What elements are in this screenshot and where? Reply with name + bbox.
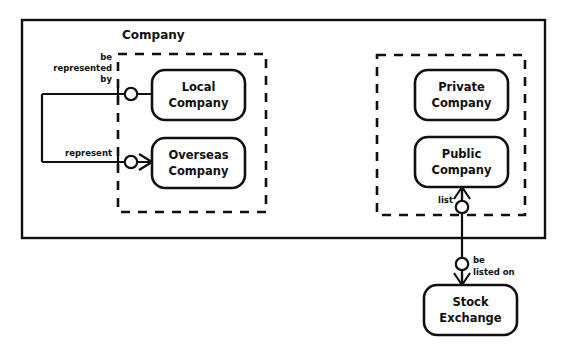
svg-text:listed on: listed on xyxy=(473,267,515,277)
cardinality-optional-be-listed-on xyxy=(456,258,468,270)
entity-private-company[interactable]: Private Company xyxy=(415,70,508,120)
entity-local-company[interactable]: Local Company xyxy=(152,70,245,120)
entity-label-local-company-line1: Local xyxy=(182,80,216,94)
cardinality-optional-represent xyxy=(125,156,137,168)
er-diagram: Company be represented by represent Loca… xyxy=(0,0,563,352)
entity-label-private-company-line1: Private xyxy=(438,80,485,94)
cardinality-optional-list xyxy=(456,201,468,213)
svg-text:by: by xyxy=(100,74,112,84)
relationship-label-be-represented-by: be represented by xyxy=(53,52,112,84)
entity-label-public-company-line1: Public xyxy=(442,147,482,161)
svg-text:be: be xyxy=(473,255,485,265)
cardinality-many-be-listed-on xyxy=(454,273,470,285)
cardinality-optional-be-represented-by xyxy=(125,88,137,100)
entity-label-stock-exchange-line1: Stock xyxy=(452,295,488,309)
entity-public-company[interactable]: Public Company xyxy=(415,137,508,187)
entity-label-local-company-line2: Company xyxy=(169,96,230,110)
svg-text:represented: represented xyxy=(53,63,112,73)
relationship-label-be-listed-on: be listed on xyxy=(473,255,515,277)
entity-label-overseas-company-line2: Company xyxy=(169,164,230,178)
cardinality-many-represent xyxy=(139,154,152,170)
entity-label-overseas-company-line1: Overseas xyxy=(169,148,229,162)
cardinality-many-list xyxy=(454,187,470,199)
entity-label-stock-exchange-line2: Exchange xyxy=(439,311,501,325)
relationship-label-represent: represent xyxy=(65,148,112,158)
entity-label-private-company-line2: Company xyxy=(432,96,493,110)
entity-stock-exchange[interactable]: Stock Exchange xyxy=(424,285,517,335)
entity-overseas-company[interactable]: Overseas Company xyxy=(152,138,245,188)
diagram-canvas: Company be represented by represent Loca… xyxy=(0,0,563,352)
entity-label-public-company-line2: Company xyxy=(432,163,493,177)
svg-text:be: be xyxy=(100,52,112,62)
relationship-label-list: list xyxy=(438,195,453,205)
group-title-company: Company xyxy=(122,28,185,42)
